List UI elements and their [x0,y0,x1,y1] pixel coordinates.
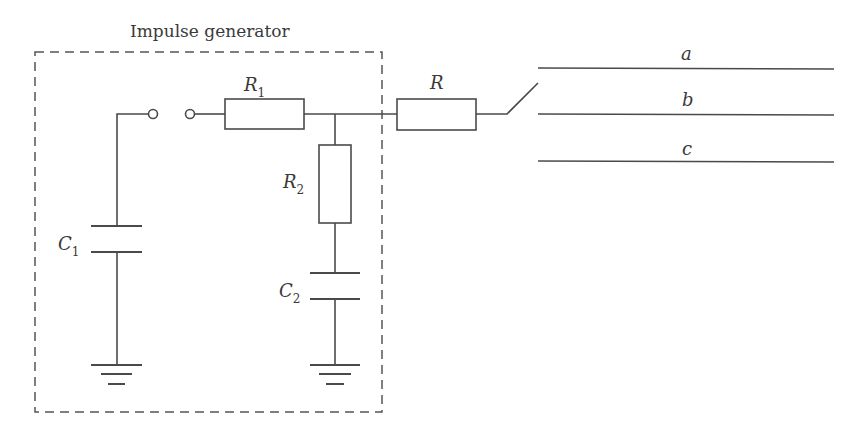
resistor-r2 [319,145,351,223]
r1-label: R1 [243,74,265,100]
impulse-generator-circuit: Impulse generator C1 R1 R2 C2 [0,0,865,439]
resistor-r1 [225,99,304,129]
conductor-line-b [538,114,834,115]
conductor-line-a [538,68,834,69]
impulse-generator-boundary [35,52,382,412]
r2-c2-branch: R2 C2 [279,114,360,384]
c2-label: C2 [279,280,300,306]
spark-gap-terminal-right [186,110,195,119]
selector-switch [476,83,538,114]
spark-gap-terminal-left [149,110,158,119]
c1-top-wire [117,114,148,226]
line-b-label: b [682,89,694,110]
c1-label: C1 [58,233,79,259]
diagram-title: Impulse generator [130,21,291,41]
line-c-label: c [682,138,692,159]
conductor-line-c [538,161,834,162]
resistor-r [397,99,476,130]
ground-icon-c2 [310,365,360,384]
line-a-label: a [681,43,692,64]
ground-icon-c1 [91,365,142,384]
r-label: R [429,72,444,93]
r2-label: R2 [282,171,304,197]
c1-branch: C1 [58,114,148,384]
